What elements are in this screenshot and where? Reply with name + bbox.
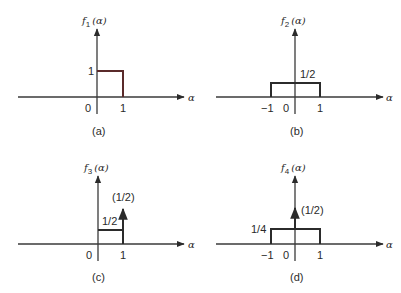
x-axis-label: α <box>386 239 393 250</box>
x-axis-label: α <box>188 239 195 250</box>
level-label: 1/2 <box>300 68 315 80</box>
x-axis-label: α <box>188 92 195 103</box>
level-label: 1 <box>88 65 94 77</box>
tick-label-neg-one: −1 <box>261 102 274 114</box>
panel-c: f3(α) (1/2) 1/2 0 1 α (c) <box>18 162 195 283</box>
panel-d: f4(α) (1/2) 1/4 −1 0 1 α (d) <box>216 162 393 283</box>
tick-label-zero: 0 <box>283 102 289 114</box>
tick-label-one: 1 <box>317 102 323 114</box>
panel-b: f2(α) 1/2 −1 0 1 α (b) <box>216 15 393 137</box>
impulse-label: (1/2) <box>112 191 135 203</box>
tick-label-zero: 0 <box>283 249 289 261</box>
tick-label-zero: 0 <box>85 102 91 114</box>
pulse-signal <box>97 71 123 97</box>
tick-label-neg-one: −1 <box>261 249 274 261</box>
panel-caption: (a) <box>92 125 105 137</box>
pulse-signal <box>98 230 123 244</box>
y-axis-label: f4(α) <box>280 162 306 176</box>
figure-canvas: f1(α) 1 0 1 α (a) f2(α) 1/2 −1 0 1 α (b)… <box>0 0 401 293</box>
level-label: 1/2 <box>102 215 117 227</box>
panel-caption: (b) <box>290 125 303 137</box>
panel-caption: (c) <box>92 271 105 283</box>
impulse-label: (1/2) <box>301 204 324 216</box>
panel-caption: (d) <box>290 271 303 283</box>
y-axis-label: f2(α) <box>280 15 306 29</box>
x-axis-label: α <box>386 92 393 103</box>
panel-a: f1(α) 1 0 1 α (a) <box>18 15 195 137</box>
tick-label-one: 1 <box>317 249 323 261</box>
y-axis-label: f3(α) <box>83 162 109 176</box>
tick-label-one: 1 <box>120 102 126 114</box>
level-label: 1/4 <box>251 223 266 235</box>
tick-label-one: 1 <box>120 249 126 261</box>
tick-label-zero: 0 <box>86 249 92 261</box>
y-axis-label: f1(α) <box>81 15 107 29</box>
